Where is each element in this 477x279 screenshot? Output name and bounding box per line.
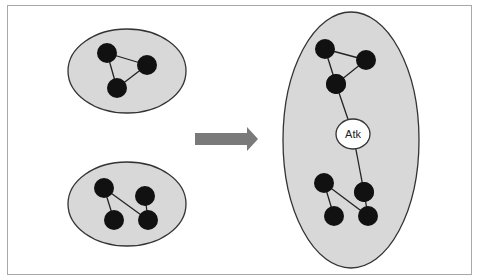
node <box>354 182 374 202</box>
node <box>358 206 378 226</box>
node <box>107 78 127 98</box>
node <box>138 210 158 230</box>
node <box>135 186 155 206</box>
node <box>326 74 346 94</box>
node <box>356 50 376 70</box>
node <box>97 43 117 63</box>
node <box>315 39 335 59</box>
group-network-b <box>68 162 186 246</box>
group-network-a <box>68 29 186 113</box>
node <box>314 173 334 193</box>
node <box>324 206 344 226</box>
group-ellipse <box>68 29 186 113</box>
node <box>137 55 157 75</box>
attacker-label: Atk <box>345 128 361 140</box>
node <box>94 178 114 198</box>
network-merge-diagram: Atk <box>0 0 477 279</box>
node <box>104 210 124 230</box>
arrow-icon <box>195 127 258 151</box>
arrow-shape <box>195 127 258 151</box>
